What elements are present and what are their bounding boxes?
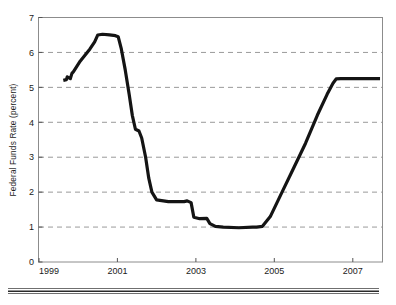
y-tick-label-0: 0 xyxy=(29,257,34,267)
chart-figure: 0 1 2 3 4 5 6 7 1999 2001 2003 2005 2007… xyxy=(0,0,396,305)
x-tick-label-2001: 2001 xyxy=(107,266,127,276)
x-tick-label-2007: 2007 xyxy=(343,266,363,276)
x-tick-label-2003: 2003 xyxy=(186,266,206,276)
y-tick-label-5: 5 xyxy=(29,83,34,93)
y-tick-label-6: 6 xyxy=(29,48,34,58)
y-tick-label-7: 7 xyxy=(29,13,34,23)
y-tick-label-2: 2 xyxy=(29,187,34,197)
x-tick-label-2005: 2005 xyxy=(264,266,284,276)
y-axis-title: Federal Funds Rate (percent) xyxy=(8,83,18,196)
x-tick-label-1999: 1999 xyxy=(39,266,59,276)
chart-background xyxy=(0,0,396,305)
y-tick-label-4: 4 xyxy=(29,118,34,128)
federal-funds-rate-line-chart: 0 1 2 3 4 5 6 7 1999 2001 2003 2005 2007… xyxy=(0,0,396,305)
y-tick-label-3: 3 xyxy=(29,152,34,162)
y-tick-label-1: 1 xyxy=(29,222,34,232)
